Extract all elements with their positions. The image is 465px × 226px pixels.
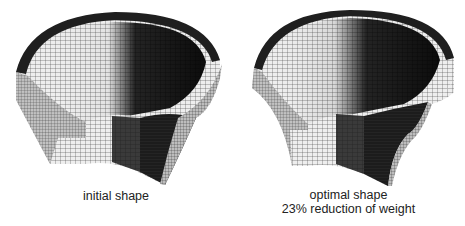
figure-initial-shape: initial shape — [0, 0, 232, 226]
caption-line-2: 23% reduction of weight — [232, 202, 465, 216]
caption-line-1: initial shape — [0, 189, 232, 203]
figure-optimal-shape: optimal shape 23% reduction of weight — [232, 0, 465, 226]
caption-optimal-shape: optimal shape 23% reduction of weight — [232, 188, 465, 216]
caption-initial-shape: initial shape — [0, 189, 232, 203]
caption-line-1: optimal shape — [232, 188, 465, 202]
optimal-shape-mesh-image — [232, 0, 465, 190]
initial-shape-mesh-image — [0, 0, 232, 190]
